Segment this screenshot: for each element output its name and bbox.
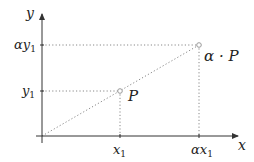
point-alpha-p bbox=[197, 43, 202, 48]
scaling-diagram: y x y1 αy1 x1 αx1 P α · P bbox=[0, 0, 254, 162]
x-axis-label: x bbox=[238, 137, 246, 153]
point-p bbox=[118, 89, 123, 94]
y1-label: y1 bbox=[21, 83, 35, 100]
point-p-label: P bbox=[127, 87, 139, 105]
x1-label: x1 bbox=[113, 142, 126, 159]
alpha-y1-label: αy1 bbox=[14, 37, 36, 54]
point-alpha-p-label: α · P bbox=[204, 47, 239, 65]
y-axis-label: y bbox=[25, 5, 35, 21]
alpha-x1-label: αx1 bbox=[191, 142, 213, 159]
